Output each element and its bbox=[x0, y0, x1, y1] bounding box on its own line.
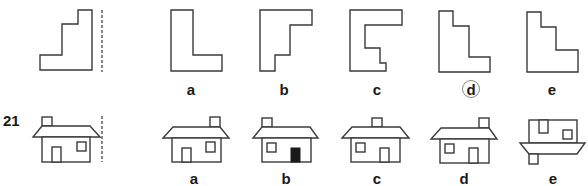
notched-shape bbox=[350, 10, 402, 71]
option-label: e bbox=[549, 170, 557, 186]
option-e[interactable]: e bbox=[520, 120, 585, 186]
door bbox=[469, 148, 478, 163]
staircase-mirror-shape bbox=[439, 11, 490, 72]
roof bbox=[33, 126, 100, 137]
staircase-shape bbox=[40, 10, 92, 70]
window bbox=[206, 142, 215, 152]
roof bbox=[253, 127, 318, 138]
option-a[interactable]: a bbox=[163, 117, 229, 186]
mirror-image-worksheet: a b c d e 21 bbox=[0, 0, 588, 186]
window bbox=[445, 144, 454, 153]
option-e[interactable]: e bbox=[527, 12, 578, 98]
option-c[interactable]: c bbox=[342, 118, 409, 186]
door bbox=[380, 148, 389, 162]
roof bbox=[431, 128, 497, 139]
option-label: c bbox=[373, 170, 381, 186]
option-label: a bbox=[190, 170, 199, 186]
question-row-21: 21 a b bbox=[3, 112, 585, 186]
question-number: 21 bbox=[3, 112, 20, 129]
prompt-figure bbox=[33, 116, 102, 162]
door bbox=[539, 120, 548, 133]
window bbox=[267, 143, 276, 152]
black-door bbox=[291, 148, 300, 162]
option-label: e bbox=[548, 81, 556, 98]
option-label: d bbox=[459, 170, 468, 186]
option-d[interactable]: d bbox=[431, 118, 497, 186]
window bbox=[77, 142, 86, 151]
window bbox=[563, 130, 572, 139]
option-label: b bbox=[281, 170, 290, 186]
roof bbox=[520, 143, 585, 154]
chimney bbox=[529, 154, 538, 164]
option-label: c bbox=[373, 81, 381, 98]
chimney bbox=[372, 118, 382, 127]
option-a[interactable]: a bbox=[171, 10, 222, 98]
prompt-figure bbox=[40, 10, 102, 72]
chimney bbox=[479, 118, 489, 128]
option-c[interactable]: c bbox=[350, 10, 402, 98]
door bbox=[182, 148, 191, 162]
option-b[interactable]: b bbox=[253, 118, 318, 186]
roof bbox=[342, 127, 409, 138]
roof bbox=[163, 127, 229, 138]
option-label: b bbox=[279, 81, 288, 98]
chimney bbox=[42, 117, 52, 126]
door bbox=[52, 147, 61, 162]
option-label: d bbox=[466, 81, 475, 98]
question-row-1: a b c d e bbox=[40, 10, 578, 98]
chimney bbox=[210, 117, 220, 127]
staircase-variant-shape bbox=[527, 12, 578, 72]
option-d[interactable]: d bbox=[439, 11, 490, 98]
l-shape bbox=[171, 10, 222, 71]
option-label: a bbox=[187, 81, 196, 98]
chimney bbox=[262, 118, 272, 127]
stepped-shape bbox=[260, 10, 312, 71]
option-b[interactable]: b bbox=[260, 10, 312, 98]
window bbox=[356, 143, 365, 152]
